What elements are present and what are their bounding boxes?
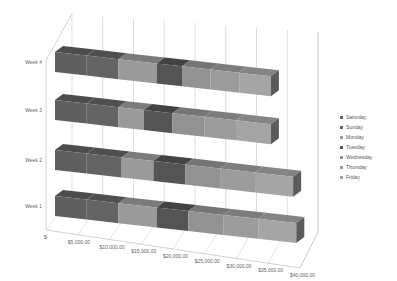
segment-tuesday — [157, 207, 189, 231]
segment-monday — [119, 203, 157, 227]
bars — [55, 46, 304, 243]
segment-friday — [239, 73, 271, 97]
segment-thursday — [211, 69, 240, 92]
category-label: Week 1 — [25, 203, 42, 209]
segment-wednesday — [185, 165, 220, 189]
segment-thursday — [220, 169, 255, 193]
legend-item-wednesday: Wednesday — [340, 152, 397, 162]
segment-wednesday — [182, 66, 211, 89]
category-label: Week 3 — [25, 107, 42, 113]
segment-monday — [119, 107, 144, 130]
bar-week-3 — [55, 94, 279, 144]
bar-week-2 — [55, 144, 301, 197]
segment-wednesday — [172, 113, 204, 137]
legend-item-tuesday: Tuesday — [340, 142, 397, 152]
category-axis-labels: Week 1Week 2Week 3Week 4 — [25, 59, 42, 209]
segment-monday — [122, 157, 154, 181]
segment-saturday — [55, 196, 87, 220]
segment-sunday — [87, 200, 119, 224]
segment-monday — [119, 59, 157, 83]
x-tick-label: $30,000.00 — [227, 263, 252, 269]
segment-sunday — [87, 56, 119, 80]
x-tick-label: $35,000.00 — [258, 267, 283, 273]
x-tick-label: $20,000.00 — [163, 253, 188, 259]
segment-saturday — [55, 100, 87, 124]
legend-label: Wednesday — [346, 154, 372, 160]
stacked-3d-bar-chart: Week 1Week 2Week 3Week 4 $-$5,000.00$10,… — [0, 0, 397, 281]
x-tick-label: $5,000.00 — [68, 239, 90, 245]
x-tick-label: $15,000.00 — [131, 248, 156, 254]
legend-swatch-icon — [340, 116, 343, 119]
legend-swatch-icon — [340, 136, 343, 139]
legend-item-thursday: Thursday — [340, 162, 397, 172]
segment-thursday — [223, 215, 258, 239]
segment-sunday — [87, 104, 119, 128]
bar-week-1 — [55, 190, 304, 243]
legend-swatch-icon — [340, 176, 343, 179]
legend-item-saturday: Saturday — [340, 112, 397, 122]
legend-swatch-icon — [340, 166, 343, 169]
segment-saturday — [55, 52, 87, 76]
legend-label: Tuesday — [346, 144, 365, 150]
legend-item-friday: Friday — [340, 172, 397, 182]
legend-swatch-icon — [340, 126, 343, 129]
legend-label: Thursday — [346, 164, 367, 170]
legend-swatch-icon — [340, 156, 343, 159]
segment-tuesday — [157, 63, 182, 86]
segment-friday — [258, 219, 296, 243]
legend-swatch-icon — [340, 146, 343, 149]
segment-wednesday — [188, 211, 223, 235]
legend: SaturdaySundayMondayTuesdayWednesdayThur… — [340, 112, 397, 182]
x-tick-label: $- — [44, 234, 49, 240]
segment-tuesday — [153, 161, 185, 185]
legend-label: Saturday — [346, 114, 366, 120]
segment-thursday — [204, 117, 236, 141]
legend-label: Friday — [346, 174, 360, 180]
legend-label: Monday — [346, 134, 364, 140]
segment-sunday — [87, 154, 122, 178]
x-tick-label: $25,000.00 — [195, 258, 220, 264]
legend-item-sunday: Sunday — [340, 122, 397, 132]
category-label: Week 4 — [25, 59, 42, 65]
x-tick-label: $40,000.00 — [290, 272, 315, 278]
bar-week-4 — [55, 46, 279, 96]
segment-friday — [236, 120, 271, 144]
legend-item-monday: Monday — [340, 132, 397, 142]
x-tick-label: $10,000.00 — [100, 244, 125, 250]
segment-tuesday — [144, 110, 173, 133]
segment-friday — [255, 172, 293, 196]
category-label: Week 2 — [25, 157, 42, 163]
legend-label: Sunday — [346, 124, 363, 130]
segment-saturday — [55, 150, 87, 174]
